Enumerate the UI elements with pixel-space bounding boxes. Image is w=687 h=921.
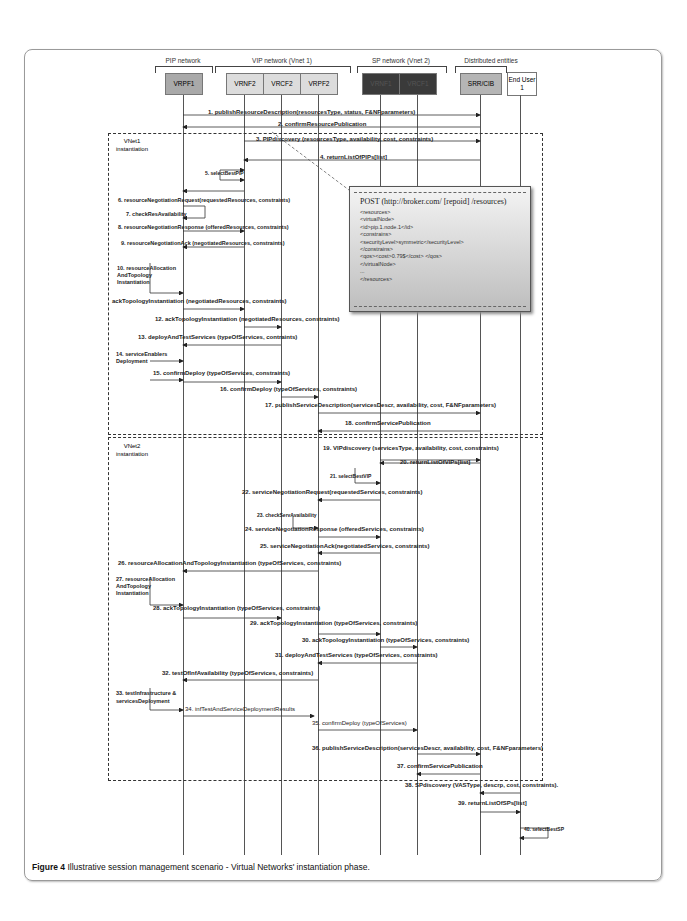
- post-line: <resources>: [360, 209, 526, 216]
- message-label: 14. serviceEnablers: [116, 351, 167, 357]
- post-header: POST (http://broker.com/ [repoid] /resou…: [360, 197, 526, 206]
- message-label: 16. confirmDeploy (typeOfServices, const…: [220, 386, 357, 392]
- message-label: 10. resourceAllocation: [117, 265, 176, 271]
- message-label: 17. publishServiceDescription(servicesDe…: [265, 402, 496, 408]
- message-label: 5. selectBestPIP: [205, 170, 244, 176]
- post-line: <id>pip.1.node.1</id>: [360, 224, 526, 231]
- post-line: </resources>: [360, 276, 526, 283]
- post-line: <qos><cost>0.79$</cost> </qos>: [360, 253, 526, 260]
- message-label: 27. resourceAllocation: [116, 576, 175, 582]
- message-label: 8. resourceNegotiationResponse (offeredR…: [118, 224, 289, 230]
- message-label: 30. ackTopologyInstantiation (typeOfServ…: [302, 637, 469, 643]
- post-line: ...: [360, 268, 526, 275]
- message-label: 2. confirmResourcePublication: [278, 121, 366, 127]
- message-label: 39. returnListOfSPs[list]: [458, 800, 527, 806]
- message-label: 36. publishServiceDescription(servicesDe…: [312, 745, 543, 751]
- message-label: 28. ackTopologyInstantiation (typeOfServ…: [153, 605, 320, 611]
- message-label: Instantiation: [116, 590, 149, 596]
- message-label: 9. resourceNegotiationAck (negotiatedRes…: [121, 240, 285, 246]
- message-label: servicesDeployment: [116, 698, 170, 704]
- message-label: 3. PIPdiscovery (resourcesType, availabi…: [256, 136, 433, 142]
- message-label: AndTopology: [116, 583, 151, 589]
- message-label: 40. selectBestSP: [524, 826, 564, 832]
- message-label: 35. confirmDeploy (typeOfServices): [312, 720, 407, 726]
- post-line: </virtualNode>: [360, 261, 526, 268]
- message-label: 34. infTestAndServiceDeploymentResults: [185, 706, 295, 712]
- message-label: 31. deployAndTestServices (typeOfService…: [275, 652, 438, 658]
- post-line: <constrains>: [360, 231, 526, 238]
- message-label: 26. resourceAllocationAndTopologyInstant…: [118, 560, 341, 566]
- message-label: 23. checkServAvailability: [257, 512, 317, 518]
- message-label: 37. confirmServicePublication: [397, 763, 483, 769]
- message-label: 7. checkResAvailability: [126, 211, 187, 217]
- figure-caption: Figure 4 Illustrative session management…: [32, 862, 370, 872]
- message-label: 25. serviceNegotiationAck(negotiatedServ…: [260, 543, 429, 549]
- post-line: </constrains>: [360, 246, 526, 253]
- message-label: 18. confirmServicePublication: [345, 420, 431, 426]
- post-line: <securityLevel>symmetric</securityLevel>: [360, 239, 526, 246]
- message-label: 24. serviceNegotiationResponse (offeredS…: [245, 526, 424, 532]
- message-label: 15. confirmDeploy (typeOfServices, const…: [153, 370, 290, 376]
- message-label: 19. VIPdiscovery (servicesType, availabi…: [323, 445, 499, 451]
- message-label: 12. ackTopologyInstantiation (negotiated…: [155, 316, 340, 322]
- message-label: 6. resourceNegotiationRequest(requestedR…: [118, 197, 290, 203]
- message-label: 33. testInfrastructure &: [116, 690, 176, 696]
- message-label: Deployment: [116, 358, 147, 364]
- message-label: 21. selectBestVIP: [330, 473, 371, 479]
- message-label: 29. ackTopologyInstantiation (typeOfServ…: [250, 620, 417, 626]
- message-label: 38. SPdiscovery (VASType, descrp, cost, …: [405, 782, 558, 788]
- message-label: 32. testOfInfAvailability (typeOfService…: [162, 670, 313, 676]
- post-request-note: POST (http://broker.com/ [repoid] /resou…: [349, 186, 531, 312]
- caption-label: Figure 4: [32, 862, 65, 872]
- message-label: 1. publishResourceDescription(resourcesT…: [208, 109, 415, 115]
- message-label: ackTopologyInstantiation (negotiatedReso…: [112, 298, 287, 304]
- caption-text: Illustrative session management scenario…: [67, 862, 369, 872]
- message-label: 22. serviceNegotiationRequest(requestedS…: [242, 489, 422, 495]
- message-label: 20. returnListOfVIPs[list]: [400, 459, 470, 465]
- message-label: 13. deployAndTestServices (typeOfService…: [138, 334, 297, 340]
- post-line: <virtualNode>: [360, 216, 526, 223]
- message-label: AndTopology: [117, 272, 152, 278]
- message-label: 4. returnListOfPIPs[list]: [320, 154, 387, 160]
- message-label: Instantiation: [117, 279, 150, 285]
